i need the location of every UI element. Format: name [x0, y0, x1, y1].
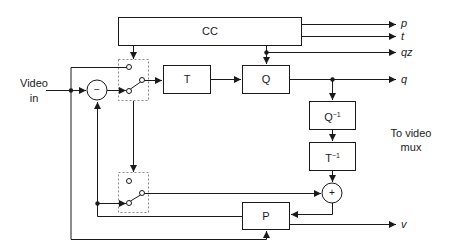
q-inverse-label: Q−1 [309, 109, 356, 123]
t-inverse-label: T−1 [309, 150, 356, 164]
p-label: P [242, 210, 290, 222]
video-in-line2: in [14, 92, 54, 104]
to-video-mux-line1: To video [381, 127, 441, 139]
to-video-mux-label: To video mux [381, 127, 441, 153]
lower-switch-contact-top [127, 179, 132, 184]
t-inverse-sup: −1 [332, 152, 340, 159]
to-video-mux-line2: mux [381, 141, 441, 153]
video-in-line1: Video [14, 77, 54, 89]
output-q-label: q [401, 73, 407, 85]
t-inverse-text: T [325, 152, 332, 164]
output-qz-label: qz [401, 46, 413, 58]
add-symbol: + [322, 187, 342, 199]
output-t-label: t [401, 30, 404, 42]
feedback-junction [95, 201, 99, 205]
t-label: T [163, 73, 211, 85]
output-v-label: v [401, 218, 407, 230]
output-p-label: p [401, 17, 407, 29]
q-inverse-text: Q [324, 111, 333, 123]
subtract-symbol: − [87, 84, 107, 96]
upper-switch-contact-top [127, 65, 132, 70]
q-junction [330, 77, 334, 81]
q-inverse-sup: −1 [333, 111, 341, 118]
diagram-canvas [0, 0, 453, 248]
q-label: Q [242, 73, 290, 85]
cc-label: CC [118, 25, 302, 37]
input-junction [69, 88, 73, 92]
qz-junction [264, 50, 268, 54]
video-in-label: Video in [14, 77, 54, 104]
